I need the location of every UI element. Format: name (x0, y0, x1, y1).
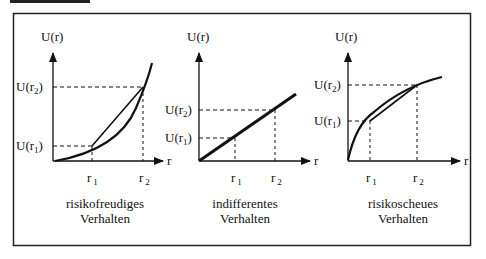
tick-u-r1: U(r1) (314, 113, 341, 130)
x-axis-label: r (314, 153, 319, 168)
tick-u-r2: U(r2) (314, 77, 341, 94)
x-axis-label: r (167, 153, 172, 168)
caption-line-1: risikofreudiges (30, 196, 180, 211)
tick-r2: r2 (271, 170, 282, 187)
caption-risk-neutral: indifferentes Verhalten (170, 196, 320, 226)
caption-line-1: risikoscheues (328, 196, 478, 211)
tick-r1: r1 (87, 170, 98, 187)
chord (92, 87, 143, 146)
y-axis-label: U(r) (335, 29, 357, 44)
chord (370, 85, 417, 121)
tick-r2: r2 (139, 170, 150, 187)
tick-u-r2: U(r2) (165, 102, 192, 119)
concave-utility-curve (348, 77, 442, 160)
y-axis-label: U(r) (41, 29, 63, 44)
panel-risk-seeking: U(r) r U(r2) U(r1) r1 r2 (16, 29, 172, 187)
tick-u-r2: U(r2) (16, 79, 43, 96)
caption-line-2: Verhalten (30, 211, 180, 226)
linear-utility-line (199, 94, 296, 161)
y-axis-label: U(r) (187, 29, 209, 44)
caption-line-2: Verhalten (328, 211, 478, 226)
panel-risk-averse: U(r) r U(r2) U(r1) r1 r2 (314, 29, 469, 187)
tick-r2: r2 (413, 170, 424, 187)
panel-risk-neutral: U(r) r U(r2) U(r1) r1 r2 (165, 29, 319, 187)
caption-line-2: Verhalten (170, 211, 320, 226)
tick-u-r1: U(r1) (16, 138, 43, 155)
tick-r1: r1 (366, 170, 377, 187)
caption-risk-seeking: risikofreudiges Verhalten (30, 196, 180, 226)
x-axis-label: r (464, 153, 469, 168)
tick-u-r1: U(r1) (165, 130, 192, 147)
caption-line-1: indifferentes (170, 196, 320, 211)
tick-r1: r1 (231, 170, 242, 187)
caption-risk-averse: risikoscheues Verhalten (328, 196, 478, 226)
